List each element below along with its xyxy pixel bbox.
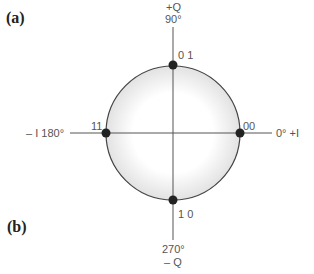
top-axis-label: +Q [166, 2, 181, 13]
bottom-angle-label: 270° [162, 244, 185, 255]
panel-label-b: (b) [7, 219, 27, 235]
left-axis-label: – I 180° [26, 128, 64, 139]
point-10 [169, 196, 178, 205]
bottom-axis-label: – Q [164, 257, 182, 268]
point-11 [102, 129, 111, 138]
right-axis-label: 0° +I [276, 128, 299, 139]
point-label-10: 1 0 [178, 209, 193, 220]
top-angle-label: 90° [165, 14, 182, 25]
point-label-01: 0 1 [178, 50, 193, 61]
point-label-00: 00 [243, 121, 255, 132]
panel-label-a: (a) [6, 10, 25, 26]
point-label-11: 11 [91, 121, 102, 132]
point-01 [169, 61, 178, 70]
